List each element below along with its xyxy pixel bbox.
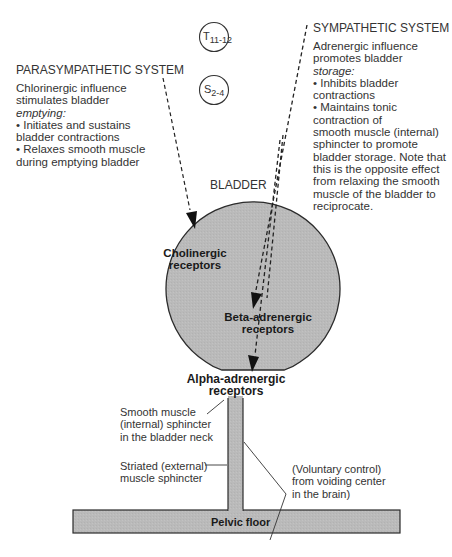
internal-sphincter-label: Smooth muscle (internal) sphincter in th…: [120, 406, 213, 443]
parasympathetic-pathway: [163, 78, 190, 210]
sympathetic-bullet: smooth muscle (internal): [313, 126, 446, 138]
voluntary-control-label: (Voluntary control) from voiding center …: [292, 463, 386, 500]
sympathetic-line: promotes bladder: [313, 52, 446, 64]
parasympathetic-title: PARASYMPATHETIC SYSTEM: [16, 64, 184, 76]
beta-adrenergic-receptors-label: Beta-adrenergic receptors: [218, 311, 318, 336]
sympathetic-bullet: contraction of: [313, 114, 446, 126]
external-sphincter-label: Striated (external) muscle sphincter: [120, 460, 207, 485]
sympathetic-description: Adrenergic influence promotes bladder st…: [313, 40, 446, 212]
spinal-segment-t-label: T11-12: [203, 30, 232, 46]
parasympathetic-bullet: • Relaxes smooth muscle: [16, 143, 145, 155]
parasympathetic-emphasis: emptying:: [16, 107, 145, 119]
sympathetic-bullet: reciprocate.: [313, 200, 446, 212]
sympathetic-bullet: from relaxing the smooth: [313, 175, 446, 187]
sympathetic-emphasis: storage:: [313, 65, 446, 77]
sympathetic-bullet: muscle of the bladder to: [313, 188, 446, 200]
parasympathetic-line: stimulates bladder: [16, 94, 145, 106]
pelvic-floor-label: Pelvic floor: [211, 516, 270, 528]
sympathetic-bullet: sphincter to promote: [313, 138, 446, 150]
bladder-label: BLADDER: [210, 179, 267, 191]
parasympathetic-bullet: during emptying bladder: [16, 156, 145, 168]
cholinergic-receptors-label: Cholinergic receptors: [160, 247, 230, 272]
spinal-segment-s-label: S2-4: [204, 83, 224, 99]
parasympathetic-line: Chlorinergic influence: [16, 82, 145, 94]
sympathetic-bullet: • Maintains tonic: [313, 101, 446, 113]
parasympathetic-description: Chlorinergic influence stimulates bladde…: [16, 82, 145, 168]
urethra-shape: [228, 396, 243, 512]
sympathetic-bullet: this is the opposite effect: [313, 163, 446, 175]
sympathetic-bullet: bladder storage. Note that: [313, 151, 446, 163]
sympathetic-bullet: • Inhibits bladder: [313, 77, 446, 89]
sympathetic-bullet: contractions: [313, 89, 446, 101]
sympathetic-line: Adrenergic influence: [313, 40, 446, 52]
alpha-adrenergic-receptors-label: Alpha-adrenergic receptors: [183, 373, 289, 398]
bladder-shape: [166, 202, 340, 370]
sympathetic-title: SYMPATHETIC SYSTEM: [313, 22, 449, 34]
parasympathetic-bullet: • Initiates and sustains: [16, 119, 145, 131]
parasympathetic-bullet: bladder contractions: [16, 131, 145, 143]
